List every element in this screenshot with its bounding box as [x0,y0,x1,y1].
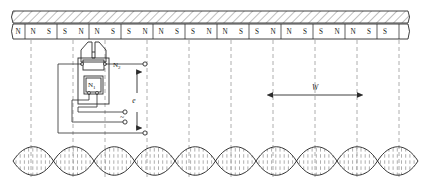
flux-lobe-hatch-6 [259,142,293,180]
svg-text:N1: N1 [88,81,96,90]
flux-lobe-lower-1 [54,161,95,175]
pole-label-19: S [319,28,323,36]
pitch-label: W [312,83,319,92]
pole-label-15: S [255,28,259,36]
flux-lobe-upper-0 [13,147,54,161]
flux-lobe-upper-9 [378,147,419,161]
flux-lobe-hatch-7 [300,142,334,180]
pole-label-17: N [286,28,292,36]
ac-source-symbol: ~ [120,113,124,122]
flux-lobe-hatch-0 [16,142,50,180]
outer-coil-label: N2 [113,61,121,70]
flux-lobe-upper-7 [297,147,338,161]
flux-lobe-lower-9 [378,161,419,175]
pole-label-11: S [191,28,195,36]
pole-label-7: S [127,28,131,36]
flux-lobe-upper-6 [256,147,297,161]
flux-lobe-lower-4 [175,161,216,175]
diagram-root: NNSSNNSSNNSSNNSSNNSSNNSS [0,0,421,184]
flux-lobe-hatch-2 [97,142,131,180]
pole-label-14: S [239,28,243,36]
pole-label-4: N [78,28,84,36]
pole-label-1: N [30,28,36,36]
pole-label-20: N [334,28,340,36]
pole-label-6: S [111,28,115,36]
flux-lobe-lower-0 [13,161,54,175]
flux-lobe-hatch-3 [138,142,172,180]
flux-lobe-upper-1 [54,147,95,161]
wiring [58,64,144,133]
output-terminals[interactable] [143,62,147,135]
pole-label-3: S [63,28,67,36]
pole-label-23: S [383,28,387,36]
flux-lobe-hatch-4 [178,142,212,180]
flux-lobe-lower-2 [94,161,135,175]
flux-lobe-lower-5 [216,161,257,175]
pole-label-18: S [303,28,307,36]
pole-label-16: N [270,28,276,36]
pole-label-0: N [15,28,21,36]
pole-label-5: N [94,28,100,36]
pole-label-8: N [142,28,148,36]
pole-label-10: S [175,28,179,36]
flux-lobe-hatch-9 [381,142,415,180]
pole-label-12: N [206,28,212,36]
flux-lobe-lower-7 [297,161,338,175]
flux-lobe-upper-2 [94,147,135,161]
scale-backing-bar [12,11,410,23]
flux-lobe-hatch-5 [219,142,253,180]
svg-text:N2: N2 [113,61,121,70]
inner-coil-label: N1 [88,81,96,90]
pole-label-9: N [158,28,164,36]
emf-label: e [132,96,136,105]
pole-label-13: N [222,28,228,36]
flux-lobe-upper-3 [135,147,176,161]
pole-label-22: S [367,28,371,36]
flux-lobe-lower-3 [135,161,176,175]
reading-head [78,42,109,104]
diagram-canvas: NNSSNNSSNNSSNNSSNNSSNNSS [0,0,421,184]
pole-label-2: S [47,28,51,36]
flux-lobe-upper-4 [175,147,216,161]
pole-label-21: N [350,28,356,36]
flux-lobe-lower-6 [256,161,297,175]
flux-lobe-upper-5 [216,147,257,161]
